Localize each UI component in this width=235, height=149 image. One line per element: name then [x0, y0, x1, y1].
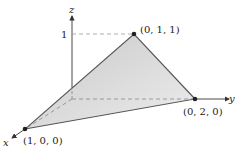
vertex-label-1-0-0: (1, 0, 0): [23, 135, 63, 146]
x-axis-label: x: [3, 137, 9, 148]
vertex-point-1-0-0: [23, 127, 28, 132]
triangle-3d-diagram: z y x 1 (0, 1, 1) (0, 2, 0) (1, 0, 0): [0, 0, 235, 149]
z-tick-label: 1: [61, 29, 67, 40]
vertex-point-0-1-1: [132, 32, 137, 37]
vertex-point-0-2-0: [193, 97, 198, 102]
z-axis-label: z: [68, 4, 75, 15]
vertex-label-0-2-0: (0, 2, 0): [183, 106, 223, 117]
triangle-face: [25, 34, 195, 129]
vertex-label-0-1-1: (0, 1, 1): [140, 24, 180, 35]
y-axis-label: y: [228, 93, 235, 104]
